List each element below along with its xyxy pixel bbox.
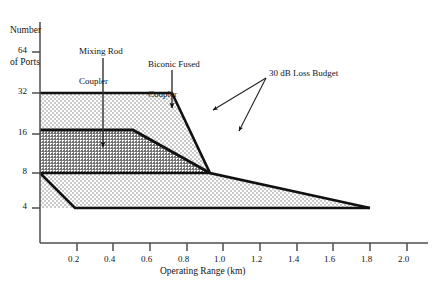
y-axis-title-line1: Number <box>10 25 41 36</box>
annotation-mixing-rod-coupler: Mixing Rod Coupler <box>79 26 123 107</box>
annotation-biconic-fused-coupler: Biconic Fused Coupler <box>148 39 200 120</box>
x-tick-label-0-6: 0.6 <box>141 254 152 264</box>
chart-svg <box>0 0 432 289</box>
x-tick-label-0-2: 0.2 <box>68 254 79 264</box>
y-tick-label-32: 32 <box>5 86 27 96</box>
x-axis-title: Operating Range (km) <box>160 266 245 277</box>
x-tick-label-1-4: 1.4 <box>288 254 299 264</box>
annotation-loss-budget: 30 dB Loss Budget <box>269 68 338 78</box>
annotation-biconic-line1: Biconic Fused <box>148 59 200 69</box>
x-tick-label-2-0: 2.0 <box>398 254 409 264</box>
x-axis-ticks <box>77 243 407 251</box>
annotation-biconic-line2: Coupler <box>148 89 200 99</box>
y-axis-title-line2: of Ports <box>10 57 41 68</box>
x-tick-label-1-2: 1.2 <box>251 254 262 264</box>
y-tick-label-8: 8 <box>5 166 27 176</box>
y-tick-label-4: 4 <box>5 201 27 211</box>
annotation-mixing-rod-line2: Coupler <box>79 76 123 86</box>
annotation-mixing-rod-line1: Mixing Rod <box>79 46 123 56</box>
x-tick-label-1-6: 1.6 <box>324 254 335 264</box>
y-tick-label-16: 16 <box>5 127 27 137</box>
x-tick-label-1-8: 1.8 <box>361 254 372 264</box>
x-tick-label-0-4: 0.4 <box>104 254 115 264</box>
y-tick-label-64: 64 <box>5 45 27 55</box>
x-tick-label-0-8: 0.8 <box>178 254 189 264</box>
x-tick-label-1-0: 1.0 <box>214 254 225 264</box>
chart-figure: Number of Ports 64 32 16 8 4 0.2 0.4 0.6… <box>0 0 432 289</box>
